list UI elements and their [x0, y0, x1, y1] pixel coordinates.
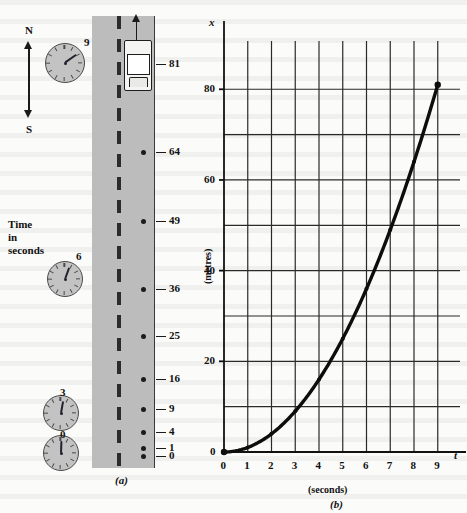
clock-tick — [50, 270, 54, 273]
time-label-line-1: Time — [8, 218, 44, 231]
position-dot-t3 — [141, 407, 146, 412]
x-tick-label-8: 8 — [411, 459, 417, 471]
data-point-t6 — [365, 287, 369, 291]
clock-tick — [52, 399, 55, 403]
clock-tick — [70, 289, 73, 293]
leader-line-t8 — [156, 152, 166, 153]
clock-tick — [70, 458, 74, 461]
panel-b-graph: x t (metres) (seconds) 01234567890204060… — [200, 0, 467, 513]
clock-hub — [60, 452, 63, 455]
clock-face-9s — [45, 43, 85, 83]
distance-label-64m: 64 — [169, 145, 180, 157]
clock-face-3s — [43, 395, 79, 431]
data-point-t4 — [317, 377, 321, 381]
leader-line-t9 — [156, 64, 166, 65]
clock-tick — [50, 284, 54, 287]
clock-tick — [48, 53, 52, 56]
panel-a-road-diagram: N S Time in seconds 9630 816449362516941… — [0, 0, 200, 513]
time-label-line-3: seconds — [8, 244, 44, 257]
leader-line-t2 — [156, 432, 166, 433]
clock-tick — [78, 62, 82, 63]
leader-line-t5 — [156, 336, 166, 337]
clock-tick — [56, 289, 59, 293]
clock-tick — [70, 265, 73, 269]
clock-tick — [46, 444, 50, 447]
distance-label-16m: 16 — [169, 372, 180, 384]
clock-tick — [71, 75, 74, 79]
x-tick-label-1: 1 — [244, 459, 250, 471]
clock-tick — [74, 284, 78, 287]
position-dot-t2 — [141, 430, 146, 435]
clock-tick — [46, 404, 50, 407]
x-tick-label-0: 0 — [221, 459, 227, 471]
clock-tick — [46, 458, 50, 461]
motion-direction-arrow-icon — [135, 14, 138, 42]
distance-label-9m: 9 — [169, 402, 175, 414]
y-tick-label-20: 20 — [204, 354, 215, 366]
clock-hub — [60, 412, 63, 415]
time-label-line-2: in — [8, 231, 44, 244]
y-tick-label-0: 0 — [210, 445, 216, 457]
clock-tick — [72, 452, 76, 453]
clock-tick — [64, 77, 65, 81]
data-point-t8 — [412, 160, 416, 164]
position-dot-t6 — [141, 287, 146, 292]
clock-tick — [52, 439, 55, 443]
x-axis-units-label: (seconds) — [308, 484, 347, 495]
position-dot-t7 — [141, 219, 146, 224]
distance-label-81m: 81 — [169, 57, 180, 69]
data-point-t2 — [270, 432, 274, 436]
compass-north-label: N — [22, 24, 36, 36]
distance-label-25m: 25 — [169, 329, 180, 341]
clock-tick — [66, 399, 69, 403]
clock-face-0s — [43, 435, 79, 471]
distance-label-0m: 0 — [169, 449, 175, 461]
clock-tick — [76, 278, 80, 279]
clock-tick — [52, 423, 55, 427]
leader-line-t7 — [156, 221, 166, 222]
position-dot-t4 — [141, 377, 146, 382]
clock-tick — [44, 412, 48, 413]
compass-south-label: S — [22, 123, 36, 135]
data-point-t3 — [293, 409, 297, 413]
clock-time-label-0: 0 — [60, 428, 66, 440]
clock-time-label-9: 9 — [84, 36, 90, 48]
clock-tick — [48, 69, 52, 72]
road-right-edge — [154, 16, 155, 468]
clock-tick — [55, 75, 58, 79]
clock-tick — [46, 418, 50, 421]
clock-tick — [46, 62, 50, 63]
clock-tick — [72, 412, 76, 413]
clock-tick — [48, 278, 52, 279]
compass-arrow-icon: N S — [22, 38, 36, 120]
clock-hub — [64, 62, 67, 65]
distance-time-curve — [224, 85, 438, 452]
data-point-t5 — [341, 337, 345, 341]
clock-tick — [60, 465, 61, 469]
clock-face-6s — [47, 261, 83, 297]
clock-tick — [70, 444, 74, 447]
distance-label-4m: 4 — [169, 425, 175, 437]
x-tick-label-9: 9 — [434, 459, 440, 471]
y-tick-label-40: 40 — [204, 264, 215, 276]
leader-line-t0 — [156, 456, 166, 457]
clock-hub — [64, 278, 67, 281]
position-dot-t1 — [141, 446, 146, 451]
x-tick-label-5: 5 — [339, 459, 345, 471]
x-tick-label-3: 3 — [292, 459, 298, 471]
car-roof — [127, 54, 150, 75]
clock-tick — [74, 270, 78, 273]
clock-tick — [64, 263, 65, 267]
clock-tick — [66, 423, 69, 427]
clock-tick — [52, 463, 55, 467]
clock-tick — [76, 69, 80, 72]
distance-label-49m: 49 — [169, 214, 180, 226]
data-point-t7 — [388, 228, 392, 232]
x-axis-name: t — [454, 449, 457, 461]
clock-tick — [70, 404, 74, 407]
clock-tick — [64, 291, 65, 295]
time-in-seconds-label: Time in seconds — [8, 218, 44, 257]
position-dot-t5 — [141, 334, 146, 339]
x-tick-label-2: 2 — [268, 459, 274, 471]
data-point-t0 — [221, 449, 227, 455]
